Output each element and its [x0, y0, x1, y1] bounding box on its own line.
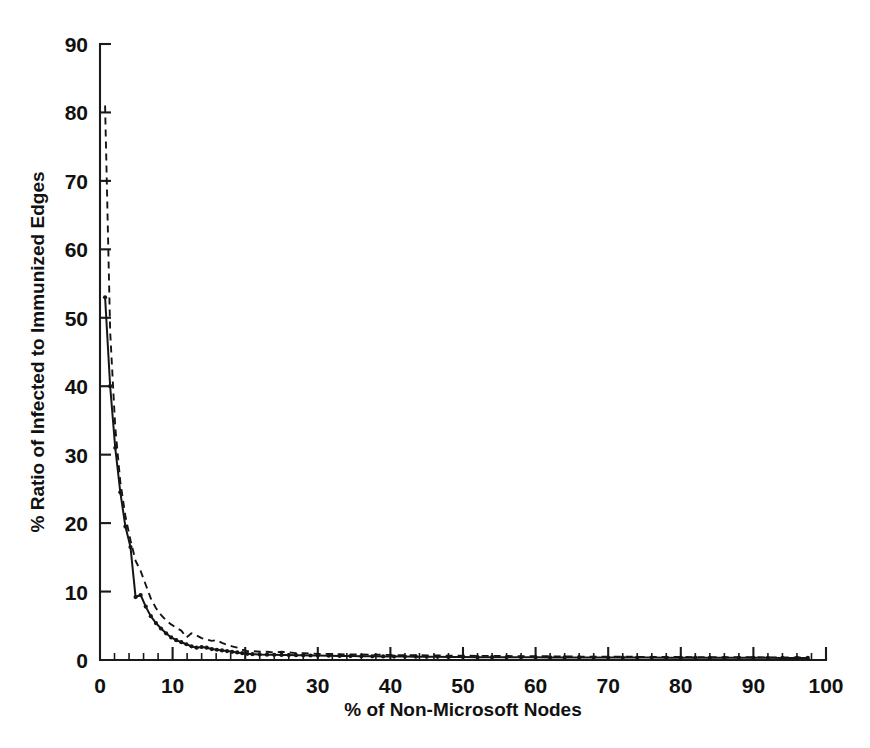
y-tick-label: 60 [65, 238, 88, 261]
x-tick-label: 30 [306, 674, 329, 697]
y-tick-label: 70 [65, 170, 88, 193]
y-tick-label: 30 [65, 444, 88, 467]
x-tick-label: 90 [742, 674, 765, 697]
data-series-group [103, 106, 810, 660]
y-major-ticks [100, 112, 111, 591]
y-tick-label: 10 [65, 581, 88, 604]
x-tick-label: 10 [161, 674, 184, 697]
y-tick-label: 40 [65, 375, 88, 398]
x-tick-label: 0 [94, 674, 106, 697]
chart-figure: 0102030405060708090100 01020304050607080… [0, 0, 870, 748]
x-tick-label: 80 [669, 674, 692, 697]
axis-frame [100, 44, 826, 660]
axes-group [100, 44, 826, 660]
x-tick-label: 50 [451, 674, 474, 697]
chart-plot-area: 0102030405060708090100 01020304050607080… [0, 0, 870, 748]
y-tick-label: 80 [65, 101, 88, 124]
x-tick-labels: 0102030405060708090100 [94, 674, 843, 697]
x-tick-label: 40 [379, 674, 402, 697]
y-tick-label: 20 [65, 512, 88, 535]
y-tick-label: 50 [65, 307, 88, 330]
x-tick-label: 60 [524, 674, 547, 697]
series-dashed-curve [105, 106, 808, 658]
y-tick-labels: 0102030405060708090 [65, 33, 88, 672]
x-tick-label: 100 [808, 674, 843, 697]
y-tick-label: 0 [76, 649, 88, 672]
y-axis-title: % Ratio of Infected to Immunized Edges [27, 171, 48, 532]
x-axis-title: % of Non-Microsoft Nodes [344, 699, 582, 720]
series-markers-solid-curve [103, 295, 810, 660]
x-tick-label: 20 [234, 674, 257, 697]
series-solid-curve [105, 297, 808, 658]
y-tick-label: 90 [65, 33, 88, 56]
x-tick-label: 70 [597, 674, 620, 697]
